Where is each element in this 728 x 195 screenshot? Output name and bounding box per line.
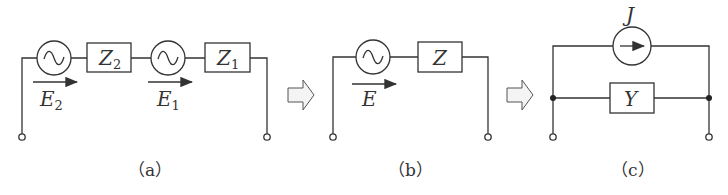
impedance-z: Z xyxy=(418,42,462,72)
terminal-left xyxy=(550,134,556,140)
node-right xyxy=(706,95,712,101)
svg-text:Y: Y xyxy=(624,87,639,111)
circuit-figure: Z2 Z1 E2 E1 （a） Z E （b） xyxy=(0,0,728,195)
panel-c: J Y （c） xyxy=(550,3,712,180)
terminal-left xyxy=(330,134,336,140)
admittance-y: Y xyxy=(610,83,654,113)
svg-text:Z: Z xyxy=(432,46,448,70)
node-left xyxy=(550,95,556,101)
label-e: E xyxy=(361,87,377,111)
terminal-right xyxy=(706,134,712,140)
caption-c: （c） xyxy=(611,160,655,180)
transform-arrow-1 xyxy=(288,80,314,110)
terminal-left xyxy=(19,134,25,140)
label-e2: E2 xyxy=(39,87,63,113)
panel-b: Z E （b） xyxy=(330,40,491,180)
label-e1: E1 xyxy=(156,87,180,113)
voltage-source-e2 xyxy=(37,41,71,75)
label-j: J xyxy=(622,3,635,27)
terminal-right xyxy=(485,134,491,140)
impedance-z2: Z2 xyxy=(87,43,131,72)
current-source-j xyxy=(613,27,651,65)
panel-a: Z2 Z1 E2 E1 （a） xyxy=(19,41,270,180)
transform-arrow-2 xyxy=(507,80,533,110)
impedance-z1: Z1 xyxy=(205,43,250,72)
voltage-source-e1 xyxy=(151,41,185,75)
caption-b: （b） xyxy=(388,160,433,180)
terminal-right xyxy=(264,134,270,140)
voltage-source-e xyxy=(356,40,390,74)
caption-a: （a） xyxy=(128,160,172,180)
